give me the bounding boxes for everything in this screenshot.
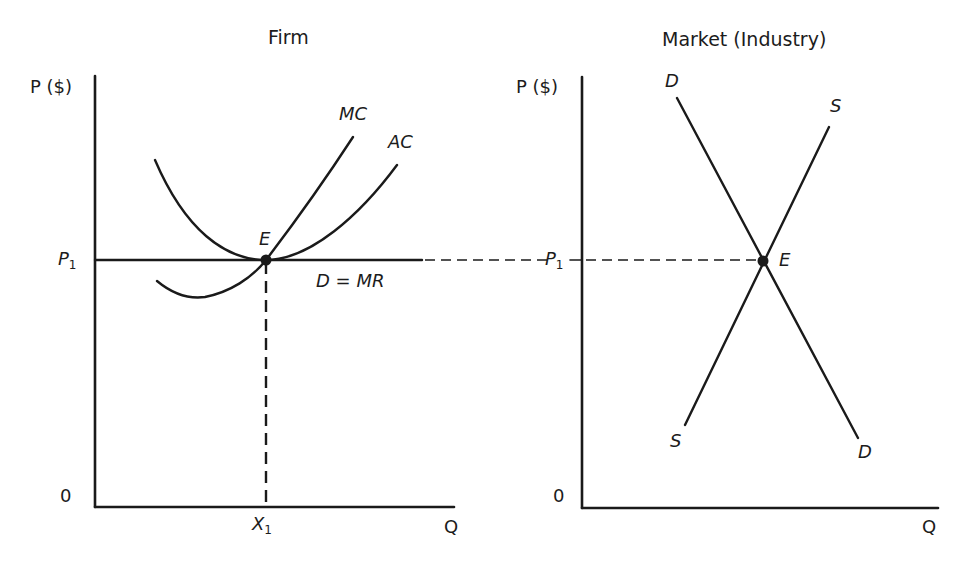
market-demand-top-label: D	[665, 72, 679, 90]
firm-origin-label: 0	[60, 487, 71, 505]
market-p1-subscript: 1	[556, 258, 564, 272]
firm-y-axis-label: P ($)	[30, 78, 72, 96]
firm-ac-label: AC	[388, 133, 413, 151]
market-supply-bottom-label: S	[670, 432, 681, 450]
market-p1-letter: P	[545, 248, 556, 269]
firm-title: Firm	[268, 28, 309, 47]
firm-mc-label: MC	[339, 105, 367, 123]
firm-equilibrium-label: E	[259, 230, 270, 248]
firm-p1-letter: P	[58, 248, 69, 269]
firm-p1-subscript: 1	[69, 258, 77, 272]
market-title: Market (Industry)	[662, 30, 826, 49]
market-origin-label: 0	[553, 487, 564, 505]
market-p1-label: P1	[545, 250, 564, 271]
market-equilibrium-point	[758, 256, 769, 267]
firm-p1-label: P1	[58, 250, 77, 271]
market-supply-line	[685, 127, 829, 425]
market-supply-top-label: S	[830, 97, 841, 115]
firm-x1-label: X1	[252, 515, 272, 536]
firm-x1-letter: X	[252, 513, 264, 534]
firm-equilibrium-point	[261, 255, 272, 266]
market-y-axis-label: P ($)	[516, 78, 558, 96]
market-equilibrium-label: E	[779, 251, 790, 269]
diagram-canvas	[0, 0, 969, 570]
market-x-axis-label: Q	[922, 518, 936, 536]
market-demand-bottom-label: D	[858, 443, 872, 461]
firm-demand-mr-label: D = MR	[316, 272, 384, 290]
firm-x1-subscript: 1	[264, 523, 272, 537]
firm-x-axis-label: Q	[444, 518, 458, 536]
